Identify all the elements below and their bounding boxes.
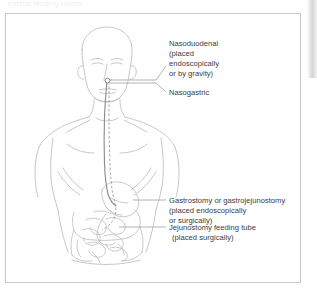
- nasogastric-tube: [104, 81, 116, 206]
- label-gastrostomy-line-1: Gastrostomy or gastrojejunostomy: [169, 196, 285, 205]
- label-gastrostomy: Gastrostomy or gastrojejunostomy (placed…: [169, 196, 285, 225]
- top-cropped-text-sliver: enteral feeding routes: [8, 0, 128, 9]
- label-jejunostomy-line-2: (placed surgically): [172, 233, 234, 242]
- label-nasoduodenal-line-1: Nasoduodenal: [169, 39, 219, 48]
- leader-nasogastric: [110, 83, 166, 92]
- label-nasoduodenal-line-4: or by gravity): [169, 69, 214, 78]
- nasal-entry-port: [105, 78, 110, 83]
- label-gastrostomy-line-2: (placed endoscopically: [169, 206, 246, 215]
- large-intestine: [71, 210, 143, 261]
- neck-and-shoulders: [39, 100, 175, 147]
- label-nasoduodenal: Nasoduodenal (placed endoscopically or b…: [169, 39, 219, 78]
- label-nasogastric-line-1: Nasogastric: [169, 88, 209, 97]
- leader-lines: [110, 66, 166, 227]
- label-nasoduodenal-line-2: (placed: [169, 49, 194, 58]
- label-nasoduodenal-line-3: endoscopically: [169, 59, 219, 68]
- enteral-feeding-diagram: Nasoduodenal (placed endoscopically or b…: [6, 14, 302, 284]
- page-edge-band: [307, 0, 317, 78]
- label-jejunostomy: Jejunostomy feeding tube (placed surgica…: [169, 223, 256, 242]
- leader-nasoduodenal: [110, 66, 166, 80]
- label-jejunostomy-line-1: Jejunostomy feeding tube: [169, 223, 256, 232]
- abdominal-organs: [71, 182, 143, 263]
- head-outline: [78, 27, 137, 102]
- label-nasogastric: Nasogastric: [169, 88, 209, 97]
- figure-frame: Nasoduodenal (placed endoscopically or b…: [5, 13, 301, 283]
